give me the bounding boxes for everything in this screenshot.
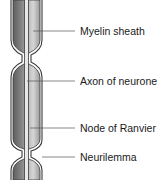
label-node-of-ranvier: Node of Ranvier	[80, 122, 156, 134]
label-myelin-sheath: Myelin sheath	[80, 25, 145, 37]
label-axon-of-neurone: Axon of neurone	[80, 75, 157, 87]
label-neurilemma: Neurilemma	[80, 151, 137, 163]
axon	[25, 0, 29, 180]
